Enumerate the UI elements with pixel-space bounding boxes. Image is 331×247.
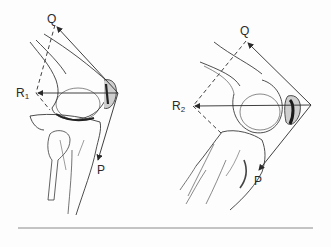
left-knee-drawing (30, 34, 116, 215)
left-q-label: Q (47, 13, 56, 25)
left-p-label: P (97, 164, 105, 176)
right-q-label: Q (240, 25, 249, 37)
right-p-label: P (254, 175, 262, 187)
right-knee-drawing (180, 42, 300, 210)
left-r-label: R1 (16, 87, 29, 101)
right-r-label: R2 (172, 100, 185, 114)
figure-canvas: Q R1 P Q R2 P (0, 0, 331, 247)
knee-force-diagram (0, 0, 331, 247)
